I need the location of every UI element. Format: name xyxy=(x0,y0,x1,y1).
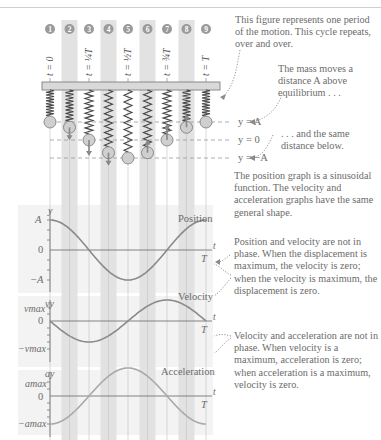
vel-tlabel: t xyxy=(213,312,216,322)
frame-number-7: 7 xyxy=(162,24,172,34)
pos-title: Position xyxy=(178,213,213,224)
frame-number-3: 3 xyxy=(84,24,94,34)
vel-ymax: vmax xyxy=(24,303,46,314)
vel-zero: 0 xyxy=(38,315,43,326)
pos-ymin: −A xyxy=(30,274,44,285)
note-above: The mass moves a distance A above equili… xyxy=(278,63,378,100)
frame-number-1: 1 xyxy=(45,24,55,34)
time-label: t = ¼T xyxy=(83,47,94,76)
svg-text:6: 6 xyxy=(146,25,150,34)
frame-number-9: 9 xyxy=(201,24,211,34)
vel-title: Velocity xyxy=(178,291,214,302)
svg-text:8: 8 xyxy=(185,25,189,34)
acc-title: Acceleration xyxy=(161,366,215,377)
svg-text:5: 5 xyxy=(126,25,130,34)
label-y-A: y = A xyxy=(238,116,262,127)
frame-number-8: 8 xyxy=(182,24,192,34)
frame-number-5: 5 xyxy=(123,24,133,34)
svg-text:4: 4 xyxy=(107,25,111,34)
note-vel-acc-phase: Velocity and acceleration are not in pha… xyxy=(234,330,380,391)
ceiling-bar xyxy=(42,82,220,90)
pos-tlabel: t xyxy=(213,241,216,251)
note-pos-vel-phase: Position and velocity are not in phase. … xyxy=(234,236,380,297)
note-period: This figure represents one period of the… xyxy=(235,14,375,51)
note-below: . . . and the same distance below. xyxy=(281,128,381,152)
time-label: t = T xyxy=(200,54,211,76)
pos-zero: 0 xyxy=(38,244,43,255)
acc-zero: 0 xyxy=(38,391,43,402)
acc-ymin: −amax xyxy=(18,418,47,429)
pos-ylabel: y xyxy=(47,205,53,216)
time-label: t = ½T xyxy=(122,47,133,76)
acc-ymax: amax xyxy=(25,378,47,389)
svg-text:3: 3 xyxy=(87,25,91,34)
svg-text:9: 9 xyxy=(204,25,208,34)
time-label: t = 0 xyxy=(44,56,55,76)
pos-ymax: A xyxy=(34,214,42,225)
frame-number-2: 2 xyxy=(65,24,75,34)
vel-ymin: −vmax xyxy=(18,343,46,354)
time-label: t = ¾T xyxy=(161,47,172,76)
svg-text:2: 2 xyxy=(68,25,72,34)
vel-ylabel: vy xyxy=(45,298,54,309)
svg-text:7: 7 xyxy=(165,25,169,34)
svg-text:1: 1 xyxy=(48,25,52,34)
frame-number-4: 4 xyxy=(104,24,114,34)
frame-number-6: 6 xyxy=(143,24,153,34)
label-y-0: y = 0 xyxy=(238,134,260,145)
acc-tlabel: t xyxy=(213,387,216,397)
frame-numbers: 123456789 xyxy=(45,24,211,34)
note-position-graph: The position graph is a sinusoidal funct… xyxy=(234,170,380,219)
